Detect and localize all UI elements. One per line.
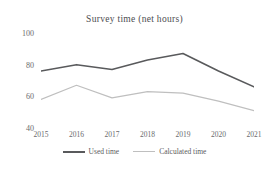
x-axis-tick-label: 2020 (211, 130, 226, 139)
x-axis-tick-label: 2017 (105, 130, 120, 139)
y-axis-tick-label: 80 (26, 60, 34, 69)
plot-area (41, 33, 254, 128)
legend-swatch-icon (133, 151, 155, 152)
x-axis-tick-label: 2016 (69, 130, 84, 139)
x-axis-tick-label: 2021 (247, 130, 262, 139)
x-axis-tick-label: 2015 (34, 130, 49, 139)
legend-swatch-icon (63, 151, 85, 153)
legend-label: Calculated time (159, 147, 206, 156)
series-line-1 (41, 54, 254, 87)
y-axis-tick-label: 60 (26, 92, 34, 101)
legend-label: Used time (89, 147, 120, 156)
x-axis-tick-label: 2018 (140, 130, 155, 139)
x-axis: 2015201620172018201920202021 (41, 130, 254, 144)
legend-item[interactable]: Calculated time (133, 147, 206, 156)
series-line-2 (41, 85, 254, 110)
chart-legend: Used timeCalculated time (0, 147, 269, 156)
legend-item[interactable]: Used time (63, 147, 120, 156)
chart-title: Survey time (net hours) (0, 14, 269, 24)
x-axis-tick-label: 2019 (176, 130, 191, 139)
y-axis: 100806040 (0, 33, 38, 128)
y-axis-tick-label: 100 (22, 29, 34, 38)
chart-container: Survey time (net hours) 100806040 201520… (0, 0, 269, 172)
plot-lines (41, 33, 254, 128)
